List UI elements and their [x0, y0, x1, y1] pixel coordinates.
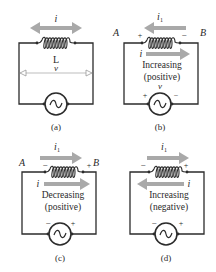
node-a-label: A [112, 27, 120, 38]
inductor-circuits-figure: i L v (a) i1 A B + − [0, 0, 216, 272]
source-polarity-right: + [71, 219, 76, 228]
inductor-coil [38, 37, 74, 48]
caption-b: (b) [155, 122, 166, 132]
induced-current-label: i1 [157, 11, 163, 23]
inductor-coil [46, 166, 82, 177]
current-label: i [55, 13, 58, 24]
state-line1: Decreasing [42, 190, 85, 200]
current-arrow-right [44, 178, 90, 190]
source-polarity-left: − [45, 218, 50, 228]
inductor-polarity-left: − [42, 160, 47, 170]
panel-a: i L v (a) [19, 13, 93, 132]
ac-source-icon [155, 223, 177, 245]
caption-d: (d) [161, 253, 172, 263]
node-a-label: A [18, 157, 26, 168]
induced-current-label: i1 [161, 141, 167, 153]
source-polarity-right: + [179, 219, 184, 228]
inductor-polarity-left: − [140, 160, 145, 170]
panel-b: i1 A B + − i Increasing (positive) v + −… [112, 11, 206, 132]
source-polarity-left: + [143, 91, 148, 100]
induced-current-arrow-right [147, 152, 189, 164]
inductor-coil [150, 166, 186, 177]
source-polarity-left: − [151, 218, 156, 228]
ac-source-icon [45, 93, 67, 115]
state-line2: (positive) [45, 202, 81, 213]
caption-a: (a) [51, 122, 61, 132]
node-b-label: B [93, 157, 99, 168]
inductor-coil [143, 37, 179, 48]
panel-d: i1 − + i Increasing (negative) − + (d) [130, 141, 204, 263]
ac-source-icon [149, 93, 171, 115]
current-arrow-left [137, 178, 184, 190]
current-label: i [37, 178, 40, 189]
current-label: i [188, 178, 191, 189]
induced-current-arrow-left [144, 22, 186, 34]
source-polarity-right: − [174, 91, 179, 100]
state-line2: (positive) [144, 72, 180, 83]
caption-c: (c) [55, 253, 65, 263]
inductor-polarity-right: + [87, 161, 92, 170]
inductor-polarity-right: + [184, 161, 189, 170]
state-line1: Increasing [142, 60, 182, 70]
current-arrow-right [146, 48, 190, 60]
inductor-polarity-left: + [138, 31, 143, 40]
state-line2: (negative) [150, 202, 189, 213]
panel-c: i1 A B − + i Decreasing (positive) − + (… [18, 141, 99, 263]
current-label: i [140, 48, 143, 59]
inductor-polarity-right: − [181, 30, 186, 40]
state-line1: Increasing [149, 190, 189, 200]
ac-source-icon [49, 223, 71, 245]
voltage-label: v [54, 63, 58, 73]
induced-current-label: i1 [54, 141, 60, 153]
node-b-label: B [200, 27, 206, 38]
voltage-label: v [158, 81, 162, 91]
